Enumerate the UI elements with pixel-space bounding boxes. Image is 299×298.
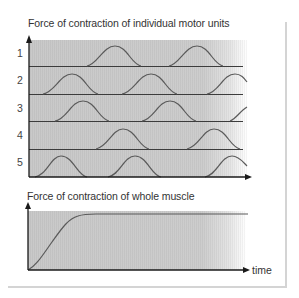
top-y-axis-arrow-icon	[26, 35, 32, 43]
diagram-canvas	[0, 0, 299, 298]
bottom-y-axis-arrow-icon	[25, 202, 31, 209]
bottom-x-axis-arrow-icon	[243, 267, 250, 273]
motor-unit-recruitment-figure: Force of contraction of individual motor…	[0, 0, 299, 298]
bottom-chart-title: Force of contraction of whole muscle	[27, 190, 194, 202]
time-axis-label: time	[252, 264, 272, 276]
bottom-chart-area	[28, 211, 246, 270]
top-x-axis-arrow-icon	[245, 174, 252, 180]
